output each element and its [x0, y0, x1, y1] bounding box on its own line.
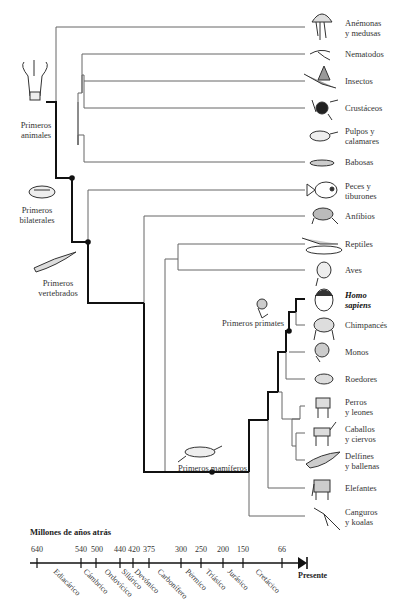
nematode-icon [310, 50, 330, 60]
tick-label: 300 [175, 545, 187, 554]
tick-label: 420 [128, 545, 140, 554]
leaf-label-roedores: Roedores [345, 374, 377, 384]
human-icon [315, 289, 333, 311]
leaf-label-peces: Peces ytiburones [345, 181, 377, 201]
milestone-first-primates: Primeros primates [222, 318, 306, 328]
leaf-label-homo-sapiens: Homosapiens [345, 290, 371, 310]
fish-icon [307, 182, 337, 198]
reptile-icon [302, 238, 342, 254]
leaf-icons [302, 14, 342, 530]
horse-icon [314, 422, 336, 446]
insect-icon [304, 66, 336, 88]
leaf-label-insectos: Insectos [345, 76, 373, 86]
leaf-label-babosas: Babosas [345, 157, 373, 167]
tick-label: 500 [91, 545, 103, 554]
leaf-label-caballos: Caballosy ciervos [345, 424, 376, 444]
flatworm-icon [29, 186, 55, 198]
kangaroo-icon [314, 508, 340, 530]
leaf-label-reptiles: Reptiles [345, 239, 373, 249]
timeline-axis [30, 557, 307, 569]
tick-label: 440 [114, 545, 126, 554]
leaf-label-aves: Aves [345, 265, 362, 275]
frog-icon [312, 208, 338, 224]
milestone-first-vertebrates: Primerosvertebrados [30, 278, 86, 298]
whale-icon [306, 452, 340, 468]
bird-icon [316, 262, 331, 286]
dog-icon [316, 398, 330, 418]
squid-icon [310, 131, 338, 141]
tick-label: 200 [217, 545, 229, 554]
leaf-label-delfines: Delfinesy ballenas [345, 451, 379, 471]
leaf-label-perros: Perrosy leones [345, 397, 373, 417]
leaf-label-pulpos: Pulpos ycalamares [345, 126, 379, 146]
crab-icon [312, 100, 338, 120]
leaf-label-crustaceos: Crustáceos [345, 103, 382, 113]
leaf-label-nematodos: Nematodos [345, 49, 384, 59]
leaf-label-canguros: Cangurosy koalas [345, 507, 378, 527]
milestone-icons [23, 60, 268, 462]
monkey-icon [315, 343, 329, 362]
tick-label: 640 [31, 545, 43, 554]
present-label: Presente [298, 571, 327, 580]
elephant-icon [312, 480, 330, 500]
tick-label: 540 [75, 545, 87, 554]
milestone-first-mammals: Primeros mamíferos [178, 463, 268, 473]
primate-ancestor-icon [257, 299, 268, 318]
slug-icon [310, 160, 334, 166]
tick-label: 375 [143, 545, 155, 554]
lancelet-icon [34, 252, 76, 272]
leaf-label-anfibios: Anfibios [345, 211, 375, 221]
leaf-label-elefantes: Elefantes [345, 483, 377, 493]
branches [56, 27, 305, 516]
tick-label: 150 [237, 545, 249, 554]
leaf-label-chimpances: Chimpancés [345, 320, 387, 330]
tick-label: 250 [195, 545, 207, 554]
jellyfish-icon [312, 14, 332, 40]
rodent-icon [315, 374, 333, 384]
milestone-first-animals: Primerosanimales [14, 120, 58, 140]
tick-label: 66 [278, 545, 286, 554]
timeline-title: Millones de años atrás [30, 527, 111, 537]
leaf-label-monos: Monos [345, 347, 369, 357]
mammal-ancestor-icon [178, 446, 222, 462]
leaf-label-anemonas: Anémonasy medusas [345, 18, 381, 38]
milestone-first-bilaterals: Primerosbilaterales [12, 205, 62, 225]
anemone-icon [23, 60, 48, 100]
chimpanzee-icon [314, 318, 334, 340]
